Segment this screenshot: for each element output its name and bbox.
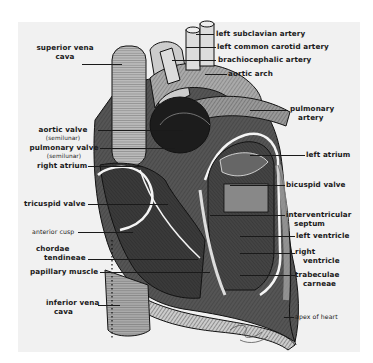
leader-left-common-carotid <box>186 47 216 48</box>
leader-chordae-tendineae <box>88 259 198 260</box>
label-aortic-arch: aortic arch <box>228 70 273 79</box>
label-right-ventricle: right ventricle <box>295 248 340 265</box>
label-anterior-cusp: anterior cusp <box>32 228 74 237</box>
leader-aortic-arch <box>205 74 227 75</box>
label-apex-of-heart: apex of heart <box>295 313 338 322</box>
leader-brachiocephalic <box>172 60 216 61</box>
leader-pulmonary-valve <box>100 148 175 149</box>
leader-papillary-muscle <box>100 272 210 273</box>
leader-left-ventricle <box>240 236 295 237</box>
leader-right-ventricle <box>240 253 295 254</box>
leader-right-atrium <box>88 166 143 167</box>
label-left-common-carotid-artery: left common carotid artery <box>217 43 329 52</box>
leader-superior-vena-cava <box>82 64 122 65</box>
label-left-subclavian-artery: left subclavian artery <box>216 30 305 39</box>
label-brachiocephalic-artery: brachiocephalic artery <box>218 56 311 65</box>
leader-tricuspid-valve <box>88 204 168 205</box>
leader-apex <box>284 317 294 318</box>
leader-trabeculae-carneae <box>240 275 295 276</box>
label-trabeculae-carneae: trabeculae carneae <box>295 271 339 288</box>
label-pulmonary-valve: pulmonary valve (semilunar) <box>28 144 100 160</box>
leader-inferior-vena-cava <box>98 305 120 306</box>
label-bicuspid-valve: bicuspid valve <box>286 181 345 190</box>
leader-interventricular-septum <box>210 215 285 216</box>
label-left-ventricle: left ventricle <box>296 232 350 241</box>
label-left-atrium: left atrium <box>306 151 350 160</box>
label-papillary-muscle: papillary muscle <box>30 268 98 277</box>
label-inferior-vena-cava: inferior vena cava <box>46 299 99 316</box>
leader-aortic-valve <box>98 130 183 131</box>
label-right-atrium: right atrium <box>37 162 87 171</box>
leader-left-atrium <box>250 155 305 156</box>
label-tricuspid-valve: tricuspid valve <box>24 200 85 209</box>
label-superior-vena-cava: superior vena cava <box>30 44 100 61</box>
label-interventricular-septum: interventricular septum <box>286 211 351 228</box>
leader-anterior-cusp <box>78 232 133 233</box>
label-pulmonary-artery: pulmonary artery <box>290 105 334 122</box>
label-chordae-tendineae: chordae tendineae <box>36 245 86 262</box>
leader-bicuspid-valve <box>230 185 285 186</box>
leader-left-subclavian <box>196 34 214 35</box>
leader-pulmonary-artery <box>250 110 288 111</box>
label-aortic-valve: aortic valve (semilunar) <box>28 126 98 142</box>
